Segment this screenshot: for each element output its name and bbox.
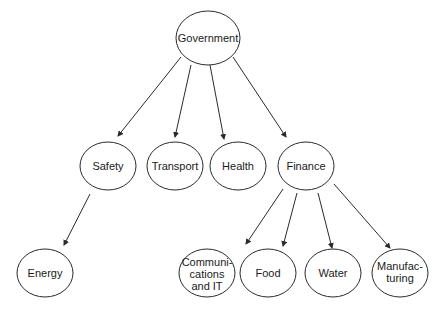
node-safety: Safety (80, 142, 136, 190)
node-label: turing (386, 272, 414, 284)
node-label: Government (178, 32, 239, 44)
edge-finance-water (318, 193, 332, 248)
node-finance: Finance (278, 142, 334, 190)
edge-government-transport (175, 65, 191, 137)
node-label: Safety (92, 160, 124, 172)
node-food: Food (240, 249, 296, 297)
node-label: Food (255, 267, 280, 279)
edge-finance-food (283, 193, 297, 246)
node-label: Transport (152, 160, 199, 172)
edge-government-finance (233, 57, 286, 137)
node-label: cations (190, 268, 225, 280)
node-health: Health (210, 142, 266, 190)
edge-government-safety (118, 57, 181, 136)
node-label: Energy (28, 267, 63, 279)
node-label: Finance (286, 160, 325, 172)
node-label: Water (319, 267, 348, 279)
edge-finance-communications (246, 189, 283, 244)
node-label: Health (222, 160, 254, 172)
node-water: Water (305, 249, 361, 297)
node-energy: Energy (17, 249, 73, 297)
hierarchy-diagram: Government Safety Transport Health Finan… (0, 0, 446, 310)
node-label: Manufac- (377, 260, 423, 272)
node-transport: Transport (147, 142, 203, 190)
edge-finance-manufacturing (334, 184, 390, 248)
node-communications: Communi- cations and IT (179, 249, 235, 297)
edge-government-health (210, 65, 224, 139)
node-label: and IT (191, 280, 222, 292)
edge-safety-energy (64, 194, 90, 245)
node-label: Communi- (182, 256, 233, 268)
node-government: Government (176, 11, 240, 65)
node-manufacturing: Manufac- turing (372, 249, 428, 297)
